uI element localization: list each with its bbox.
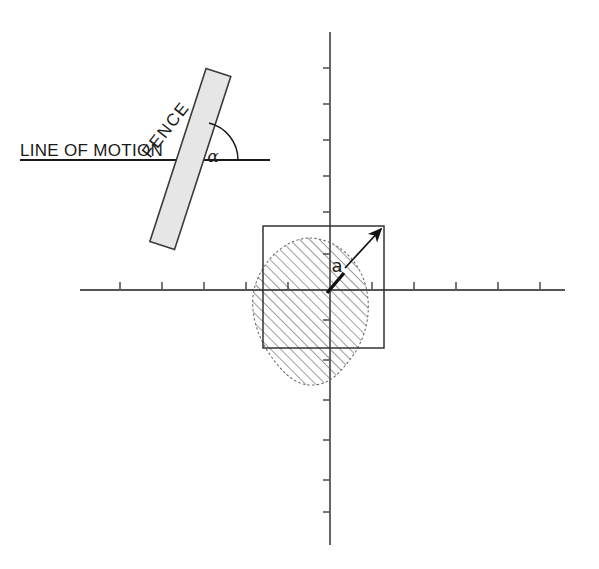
vector-a-label: a [331, 255, 342, 276]
vector-a-shaft [345, 229, 381, 268]
figure-canvas: a LINE OF MOTION FENCE α [0, 0, 599, 569]
angle-alpha-label: α [207, 146, 219, 166]
technical-diagram: a LINE OF MOTION FENCE α [0, 0, 599, 569]
